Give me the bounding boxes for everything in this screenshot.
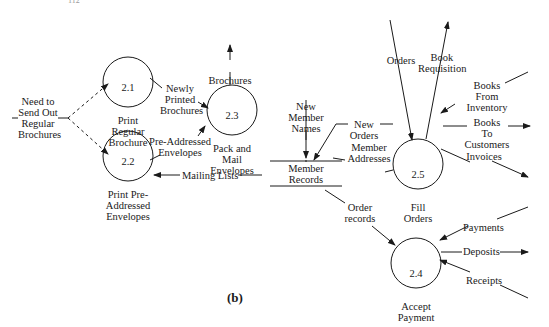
flow-pre-addressed: Pre-Addressed Envelopes [148,136,212,158]
flow-newly-printed: Newly Printed Brochures [160,83,200,116]
flow-member-addresses: Member Addresses [345,142,393,164]
flow-need-to-send: Need to Send Out Regular Brochures [18,96,58,140]
process-id: 2.4 [392,268,440,279]
flow-deposits: Deposits [463,246,499,257]
flow-books-to-customers: Books To Customers [464,117,510,150]
process-id: 2.5 [394,169,442,180]
process-id: 2.1 [104,82,152,93]
process-2-2: 2.2 Print Pre- Addressed Envelopes [102,134,154,233]
corner-page-number: 112 [68,0,80,5]
flow-order-records: Order records [342,202,378,224]
flow-book-requisition: Book Requisition [418,52,466,74]
data-store-member-records: Member Records [286,163,326,185]
process-name: Accept Payment [392,301,440,323]
flow-invoices: Invoices [466,151,502,162]
process-2-4: 2.4 Accept Payment [392,246,440,327]
process-name: Print Pre- Addressed Envelopes [102,189,154,222]
flow-orders: Orders [385,55,417,66]
figure-label: (b) [227,290,243,306]
process-id: 2.3 [206,110,258,121]
flow-new-orders: New Orders [348,119,380,141]
process-name: Fill Orders [394,202,442,224]
flow-receipts: Receipts [466,275,502,286]
process-id: 2.2 [102,156,154,167]
flow-brochures: Brochures [204,75,256,86]
flow-payments: Payments [463,222,503,233]
flow-new-member-names: New Member Names [286,101,326,134]
process-2-5: 2.5 Fill Orders [394,147,442,235]
flow-books-from-inventory: Books From Inventory [464,80,510,113]
flow-mailing-lists: Mailing Lists [182,170,238,181]
